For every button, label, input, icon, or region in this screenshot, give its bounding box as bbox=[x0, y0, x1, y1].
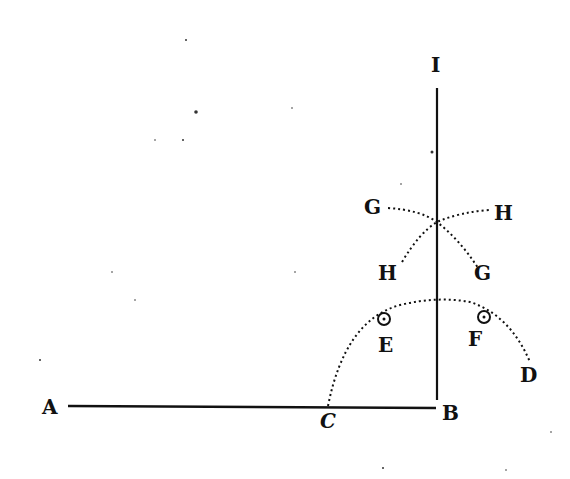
arc-G-to-G bbox=[388, 208, 478, 268]
label-G-right: G bbox=[474, 261, 491, 285]
label-B: B bbox=[442, 401, 459, 425]
label-H-right: H bbox=[494, 201, 513, 225]
label-D: D bbox=[520, 363, 537, 387]
arc-C-to-D bbox=[328, 300, 530, 406]
label-F: F bbox=[468, 327, 482, 351]
base-line-AB bbox=[68, 406, 436, 408]
label-H-left: H bbox=[378, 261, 397, 285]
label-G-left: G bbox=[364, 195, 381, 219]
geometry-diagram: A B C D E F G H H G I bbox=[0, 0, 570, 479]
label-E: E bbox=[378, 333, 393, 357]
label-C: C bbox=[320, 409, 336, 433]
label-I: I bbox=[431, 53, 440, 77]
label-A: A bbox=[41, 395, 58, 419]
arc-H-to-H bbox=[402, 210, 490, 262]
